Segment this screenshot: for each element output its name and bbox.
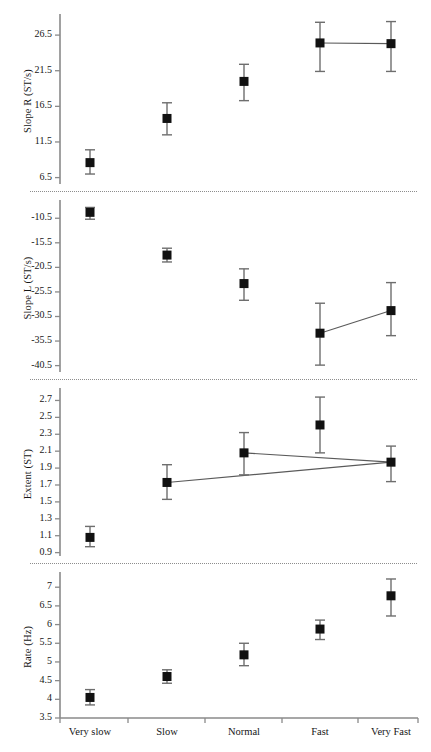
y-axis-title: Slope L (ST/s): [22, 257, 33, 320]
panel-separator: [30, 563, 417, 564]
y-axis-title: Rate (Hz): [22, 626, 33, 668]
x-tick-label-very-fast: Very Fast: [346, 726, 431, 737]
data-point-very-slow: [85, 150, 95, 174]
data-point-fast: [315, 397, 325, 453]
y-axis-title: Slope R (ST/s): [22, 69, 33, 133]
panel-3: 0.91.11.31.51.71.92.12.32.52.7Extent (ST…: [0, 386, 431, 563]
data-point-very-fast: [386, 579, 396, 616]
panel-separator: [30, 379, 417, 380]
panel-4: 3.544.555.566.57Rate (Hz): [0, 570, 431, 752]
data-point-fast: [315, 303, 325, 365]
data-point-very-slow: [85, 690, 95, 705]
data-point-normal: [239, 64, 249, 100]
data-point-slow: [162, 248, 172, 262]
data-point-normal: [239, 433, 249, 475]
data-point-very-fast: [386, 283, 396, 336]
panel-2: -10.5-15.5-20.5-25.5-30.5-35.5-40.5Slope…: [0, 196, 431, 379]
panel-separator: [30, 191, 417, 192]
data-point-fast: [315, 22, 325, 71]
data-point-normal: [239, 643, 249, 665]
data-point-very-fast: [386, 446, 396, 482]
data-point-very-slow: [85, 526, 95, 546]
data-point-very-slow: [85, 207, 95, 219]
panel-1: 6.511.516.521.526.5Slope R (ST/s): [0, 14, 431, 191]
data-point-slow: [162, 670, 172, 683]
data-point-very-fast: [386, 22, 396, 72]
multi-panel-errorbar-figure: 6.511.516.521.526.5Slope R (ST/s)-10.5-1…: [0, 0, 431, 752]
data-point-slow: [162, 103, 172, 135]
data-point-fast: [315, 620, 325, 639]
data-point-normal: [239, 269, 249, 300]
data-point-slow: [162, 465, 172, 500]
y-axis-title: Extent (ST): [22, 449, 33, 499]
